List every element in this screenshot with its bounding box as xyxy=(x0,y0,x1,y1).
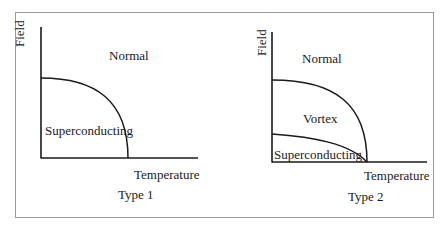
type2-region-superconducting: Superconducting xyxy=(274,148,362,161)
type2-y-axis-label: Field xyxy=(255,29,268,56)
type2-x-axis-label: Temperature xyxy=(364,169,430,182)
type1-region-superconducting: Superconducting xyxy=(45,124,133,137)
type2-region-vortex: Vortex xyxy=(303,112,337,125)
type1-caption: Type 1 xyxy=(118,188,154,201)
type2-caption: Type 2 xyxy=(348,190,384,203)
type1-region-normal: Normal xyxy=(109,49,149,62)
type1-critical-curve xyxy=(41,78,128,158)
type1-y-axis-label: Field xyxy=(13,20,26,47)
type1-x-axis-label: Temperature xyxy=(134,168,200,181)
type2-region-normal: Normal xyxy=(302,52,342,65)
